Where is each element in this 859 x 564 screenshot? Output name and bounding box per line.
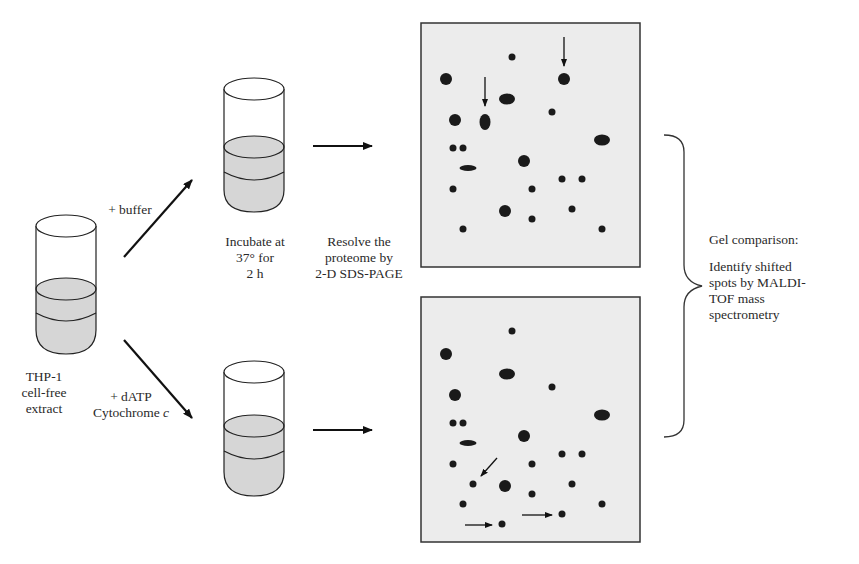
- incubate-label: Incubate at 37° for 2 h: [212, 234, 298, 282]
- treated-tube-icon: [224, 361, 284, 496]
- start-tube-icon: [36, 215, 96, 354]
- arrow-up-control: [124, 180, 192, 257]
- cytochrome-c-italic: c: [163, 405, 169, 420]
- comparison-label: Gel comparison: Identify shifted spots b…: [709, 232, 849, 323]
- control-tube-icon: [224, 78, 284, 212]
- treated-branch-label: + dATP Cytochrome c: [72, 389, 190, 421]
- resolve-label: Resolve the proteome by 2-D SDS-PAGE: [305, 234, 413, 282]
- control-gel: [421, 23, 640, 267]
- cytochrome-text: Cytochrome: [93, 405, 163, 420]
- comparison-brace: [664, 135, 702, 437]
- treated-gel: [421, 297, 640, 542]
- control-branch-label: + buffer: [94, 202, 166, 218]
